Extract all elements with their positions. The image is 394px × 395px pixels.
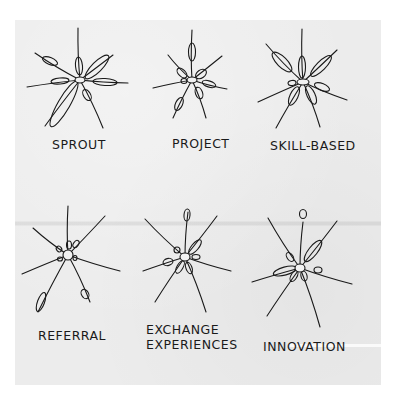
spoke-line (153, 80, 192, 88)
spoke-line (145, 219, 185, 257)
spoke-line (185, 216, 217, 257)
spoke-line (185, 257, 206, 312)
label-innovation: INNOVATION (263, 339, 346, 354)
label-line: INNOVATION (263, 339, 346, 354)
pod-node (313, 81, 330, 93)
panel-exchange-experiences (143, 209, 231, 312)
pod-node (81, 88, 93, 102)
spoke-line (266, 44, 303, 82)
spoke-line (68, 216, 105, 255)
spoke-line (22, 255, 68, 274)
spoke-line (192, 56, 222, 80)
panel-skill-based (258, 29, 347, 128)
pod-node (174, 259, 186, 274)
pod-node (34, 291, 47, 312)
label-line: EXPERIENCES (146, 337, 238, 352)
hub-node (187, 77, 197, 83)
pod-node (189, 43, 196, 61)
panel-sprout (27, 28, 128, 130)
panel-project (153, 30, 227, 118)
spoke-line (300, 268, 320, 327)
pod-node (314, 267, 322, 273)
hub-node (180, 253, 190, 261)
label-project: PROJECT (172, 136, 230, 151)
spoke-line (191, 30, 192, 80)
hub-node (63, 250, 73, 260)
spoke-line (300, 222, 303, 268)
label-line: PROJECT (172, 136, 230, 151)
label-referral: REFERRAL (38, 328, 106, 343)
spoke-line (300, 268, 352, 284)
hub-node (297, 79, 309, 85)
pod-node (300, 210, 307, 219)
hub-node (295, 264, 305, 272)
label-line: EXCHANGE (146, 322, 238, 337)
pod-node (46, 78, 82, 129)
spoke-line (185, 212, 188, 257)
spoke-line (35, 53, 80, 80)
spoke-line (80, 80, 103, 128)
hub-node (75, 77, 85, 83)
label-line: SPROUT (52, 137, 106, 152)
label-skill-based: SKILL-BASED (270, 138, 356, 153)
label-sprout: SPROUT (52, 137, 106, 152)
pod-node (187, 238, 204, 256)
spoke-line (33, 228, 68, 255)
spoke-line (38, 255, 68, 312)
pod-node (72, 239, 81, 248)
label-line: REFERRAL (38, 328, 106, 343)
spoke-line (68, 255, 90, 302)
pod-node (285, 251, 296, 263)
panel-referral (22, 206, 120, 313)
pod-node (192, 255, 200, 260)
spoke-line (268, 218, 300, 268)
pod-node (175, 66, 188, 79)
pod-node (41, 55, 58, 67)
spoke-line (155, 257, 185, 302)
label-exchange-experiences: EXCHANGE EXPERIENCES (146, 322, 238, 352)
panel-innovation (252, 210, 352, 328)
spoke-line (80, 80, 128, 83)
spoke-line (303, 50, 337, 82)
pod-node (184, 261, 194, 274)
label-line: SKILL-BASED (270, 138, 356, 153)
spoke-line (78, 28, 80, 80)
